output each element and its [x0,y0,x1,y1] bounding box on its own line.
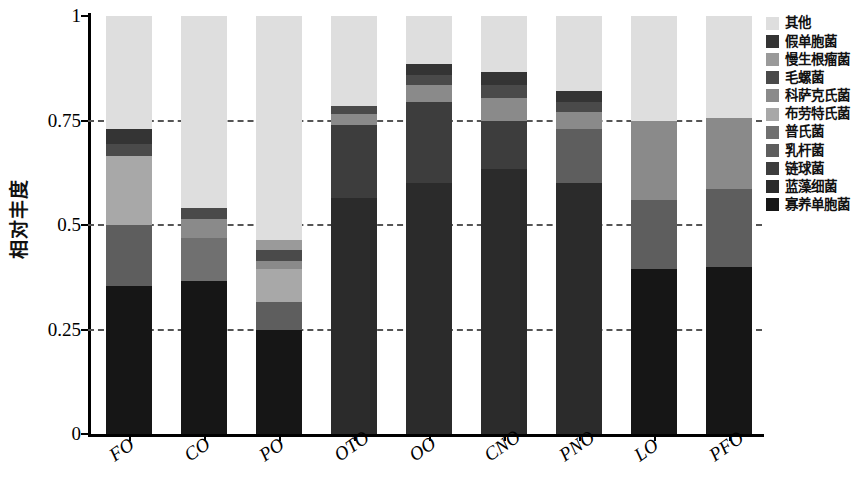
x-tick-label-po: PO [255,433,288,466]
bar-oo[interactable] [406,16,452,434]
bar-segment[interactable] [256,261,302,269]
bar-cno[interactable] [481,16,527,434]
bar-segment[interactable] [331,16,377,106]
bar-segment[interactable] [556,129,602,183]
bar-segment[interactable] [106,129,152,144]
bar-segment[interactable] [256,16,302,240]
bar-co[interactable] [181,16,227,434]
y-tick-label: 0 [72,423,82,445]
bar-segment[interactable] [106,286,152,434]
x-tick-label-fo: FO [105,433,138,466]
legend-item[interactable]: 链球菌 [766,160,859,178]
legend-item[interactable]: 科萨克氏菌 [766,87,859,105]
bar-segment[interactable] [256,302,302,329]
bar-segment[interactable] [706,118,752,189]
bar-segment[interactable] [481,121,527,169]
bar-segment[interactable] [556,112,602,129]
bar-segment[interactable] [556,16,602,91]
bar-segment[interactable] [481,72,527,85]
bar-segment[interactable] [481,98,527,121]
legend: 其他假单胞菌慢生根瘤菌毛螺菌科萨克氏菌布劳特氏菌普氏菌乳杆菌链球菌蓝藻细菌寡养单… [766,14,859,214]
bar-segment[interactable] [256,269,302,302]
legend-swatch-icon [766,108,779,121]
x-tick-label-lo: LO [630,434,663,466]
legend-item[interactable]: 慢生根瘤菌 [766,50,859,68]
bar-segment[interactable] [331,125,377,198]
bar-segment[interactable] [706,189,752,266]
y-tick-mark [81,224,88,226]
legend-label: 科萨克氏菌 [785,89,850,103]
bar-lo[interactable] [631,16,677,434]
bar-segment[interactable] [406,102,452,184]
legend-label: 毛螺菌 [785,71,824,85]
legend-label: 普氏菌 [785,125,824,139]
legend-swatch-icon [766,126,779,139]
bar-segment[interactable] [256,240,302,250]
y-axis-title: 相对丰度 [4,139,31,299]
bar-segment[interactable] [631,121,677,200]
bar-segment[interactable] [256,250,302,260]
legend-swatch-icon [766,180,779,193]
bar-segment[interactable] [181,208,227,218]
bar-segment[interactable] [106,156,152,225]
legend-swatch-icon [766,89,779,102]
legend-label: 乳杆菌 [785,144,824,158]
bar-segment[interactable] [181,281,227,434]
legend-swatch-icon [766,17,779,30]
legend-item[interactable]: 其他 [766,14,859,32]
x-tick-label-co: CO [180,433,214,466]
legend-item[interactable]: 普氏菌 [766,123,859,141]
bar-fo[interactable] [106,16,152,434]
bar-segment[interactable] [181,16,227,208]
stacked-bar-chart-figure: 相对丰度 00.250.50.751 FOCOPOOTOOOCNOPNOLOPF… [0,0,859,478]
bar-segment[interactable] [181,219,227,238]
bar-segment[interactable] [631,269,677,434]
bar-segment[interactable] [631,16,677,121]
bar-segment[interactable] [331,106,377,114]
bar-segment[interactable] [481,85,527,98]
legend-item[interactable]: 布劳特氏菌 [766,105,859,123]
y-tick-label: 0.5 [57,214,81,236]
bar-segment[interactable] [406,85,452,102]
legend-swatch-icon [766,162,779,175]
bar-segment[interactable] [331,198,377,434]
bar-segment[interactable] [256,330,302,435]
bar-segment[interactable] [556,183,602,434]
bar-segment[interactable] [406,64,452,74]
bar-segment[interactable] [631,200,677,269]
bar-segment[interactable] [106,16,152,129]
bar-oto[interactable] [331,16,377,434]
bar-segment[interactable] [406,183,452,434]
y-tick-mark [81,433,88,435]
legend-item[interactable]: 假单胞菌 [766,32,859,50]
y-tick-label: 0.25 [48,319,81,341]
bar-segment[interactable] [106,144,152,157]
bar-segment[interactable] [406,16,452,64]
y-tick-mark [81,15,88,17]
bar-segment[interactable] [481,169,527,434]
bar-segment[interactable] [706,16,752,118]
bar-segment[interactable] [181,238,227,282]
legend-item[interactable]: 乳杆菌 [766,141,859,159]
y-tick-label: 1 [72,5,82,27]
legend-item[interactable]: 蓝藻细菌 [766,178,859,196]
bar-pno[interactable] [556,16,602,434]
legend-swatch-icon [766,35,779,48]
legend-label: 蓝藻细菌 [785,180,837,194]
legend-item[interactable]: 毛螺菌 [766,69,859,87]
legend-label: 慢生根瘤菌 [785,53,850,67]
x-tick-label-oo: OO [405,432,440,466]
legend-label: 布劳特氏菌 [785,107,850,121]
legend-label: 寡养单胞菌 [785,198,850,212]
bar-pfo[interactable] [706,16,752,434]
bar-segment[interactable] [106,225,152,286]
legend-item[interactable]: 寡养单胞菌 [766,196,859,214]
bar-segment[interactable] [556,102,602,112]
bar-segment[interactable] [331,114,377,124]
bar-segment[interactable] [556,91,602,101]
bar-po[interactable] [256,16,302,434]
bar-segment[interactable] [706,267,752,434]
legend-label: 链球菌 [785,162,824,176]
bar-segment[interactable] [406,75,452,85]
bar-segment[interactable] [481,16,527,72]
